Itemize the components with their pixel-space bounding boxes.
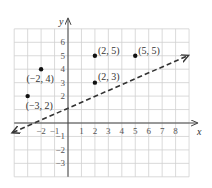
svg-text:5: 5 (133, 126, 138, 136)
svg-text:2: 2 (61, 91, 66, 101)
svg-text:4: 4 (120, 126, 125, 136)
svg-text:3: 3 (61, 78, 66, 88)
svg-text:(2, 3): (2, 3) (98, 71, 120, 83)
svg-text:5: 5 (61, 51, 66, 61)
svg-text:7: 7 (160, 126, 165, 136)
svg-text:(5, 5): (5, 5) (138, 45, 160, 57)
svg-text:2: 2 (93, 126, 98, 136)
svg-text:3: 3 (106, 126, 111, 136)
svg-text:−2: −2 (55, 145, 65, 155)
svg-text:8: 8 (173, 126, 178, 136)
svg-text:−2: −2 (36, 126, 46, 136)
y-axis-label: y (58, 16, 64, 27)
svg-text:−1: −1 (55, 131, 65, 141)
svg-text:(−2, 4): (−2, 4) (26, 73, 53, 85)
data-points: (−3, 2)(−2, 4)(2, 3)(2, 5)(5, 5) (25, 45, 159, 112)
svg-text:(2, 5): (2, 5) (98, 45, 120, 57)
svg-text:(−3, 2): (−3, 2) (26, 100, 53, 112)
dashed-line (13, 56, 188, 133)
svg-text:6: 6 (146, 126, 151, 136)
tick-labels: −2−11234567865432−1−2−3 (36, 37, 178, 168)
svg-text:4: 4 (61, 64, 66, 74)
svg-text:−3: −3 (55, 158, 65, 168)
x-axis-label: x (196, 126, 202, 137)
svg-text:1: 1 (79, 126, 84, 136)
svg-text:6: 6 (61, 37, 66, 47)
coordinate-plane: −2−11234567865432−1−2−3 (−3, 2)(−2, 4)(2… (0, 0, 212, 188)
